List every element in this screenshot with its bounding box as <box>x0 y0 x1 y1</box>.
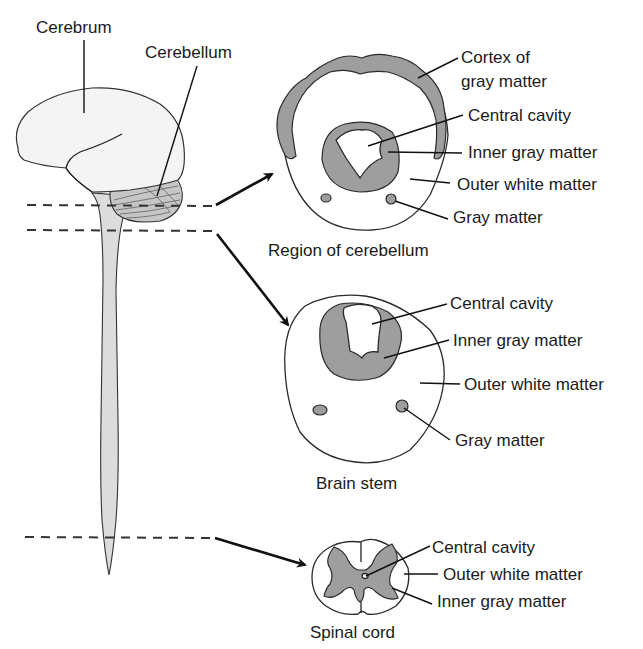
cortex-label-line1: Cortex of <box>461 48 530 67</box>
sc-outer-white-label: Outer white matter <box>443 565 583 584</box>
gray-matter-spot-right <box>386 194 396 204</box>
arrow-to-spinal <box>215 538 305 565</box>
cerebellum-section <box>277 54 448 230</box>
cb-gray-matter-label: Gray matter <box>453 208 543 227</box>
cb-inner-gray-leader <box>388 152 462 153</box>
cb-inner-gray-label: Inner gray matter <box>468 143 598 162</box>
spinalcord-section <box>312 539 409 614</box>
cerebellum-section-title: Region of cerebellum <box>268 241 429 260</box>
brainstem-section <box>285 295 445 463</box>
cerebrum-shape <box>16 88 184 192</box>
bs-outer-white-leader <box>420 383 460 384</box>
bs-central-cavity-label: Central cavity <box>450 294 553 313</box>
cerebellum-label: Cerebellum <box>145 43 232 62</box>
gray-matter-spot-left <box>321 194 331 202</box>
bs-outer-white-label: Outer white matter <box>464 375 604 394</box>
bs-inner-gray-label: Inner gray matter <box>453 331 583 350</box>
brain-side-view <box>16 88 184 575</box>
cb-central-cavity-label: Central cavity <box>468 106 571 125</box>
section-line-spinal <box>25 537 212 538</box>
brainstem-gray-spot-left <box>313 405 327 415</box>
spinalcord-section-title: Spinal cord <box>310 623 395 642</box>
cortex-leader <box>418 58 458 78</box>
bs-gray-matter-label: Gray matter <box>455 431 545 450</box>
spinal-cord-shape <box>92 193 132 575</box>
cerebrum-label: Cerebrum <box>36 18 112 37</box>
sc-central-cavity-label: Central cavity <box>432 538 535 557</box>
cortex-label-line2: gray matter <box>461 72 547 91</box>
cb-outer-white-label: Outer white matter <box>457 175 597 194</box>
brainstem-section-title: Brain stem <box>316 474 397 493</box>
arrow-to-cerebellum <box>216 174 272 205</box>
cns-cross-section-diagram: Cerebrum Cerebellum Cortex of gray matte… <box>0 0 643 649</box>
sc-inner-gray-label: Inner gray matter <box>437 592 567 611</box>
